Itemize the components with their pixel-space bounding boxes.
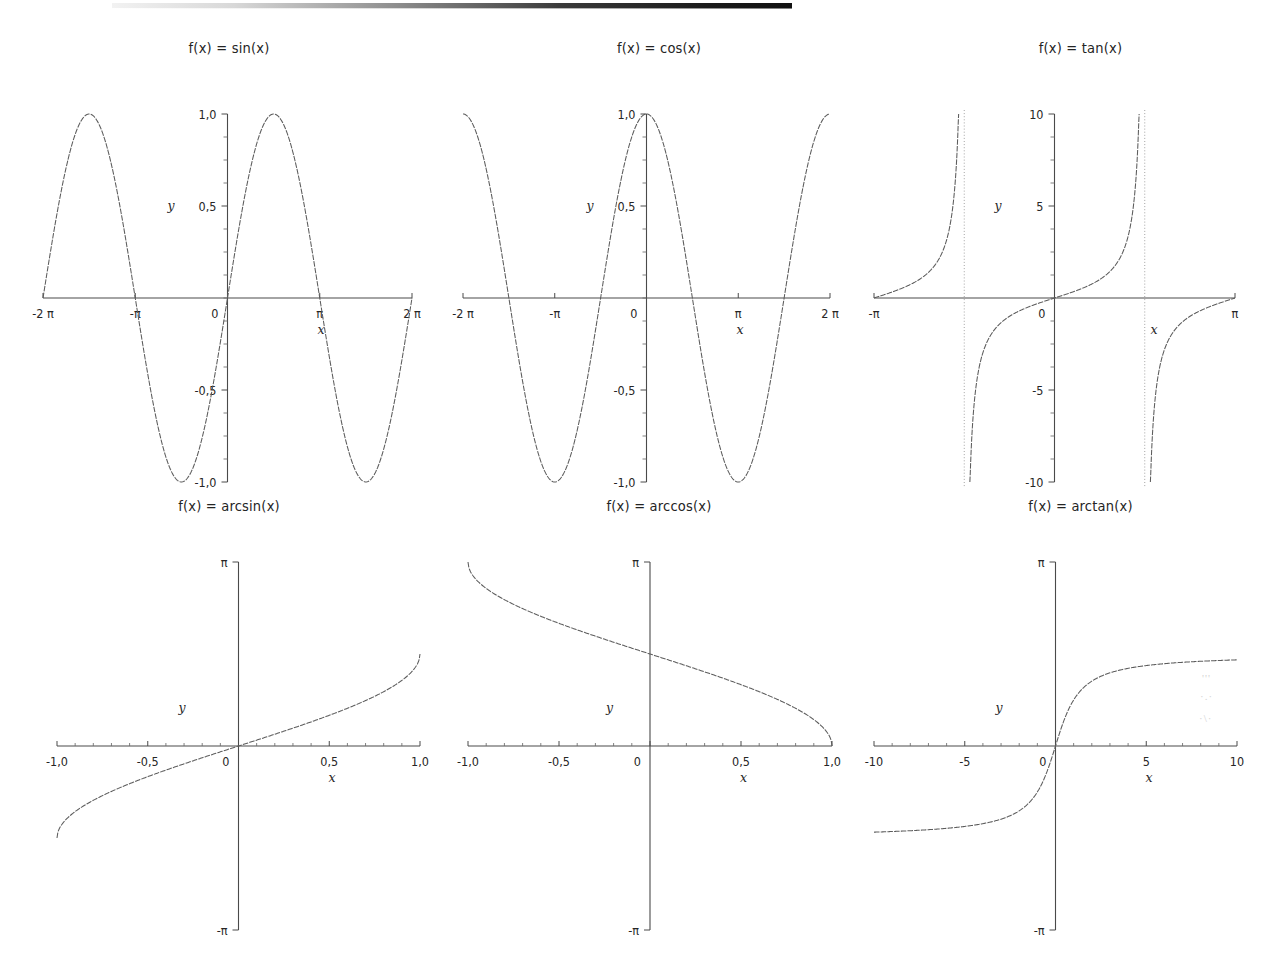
y-tick-label: π — [632, 555, 639, 570]
plot-title-arctan: f(x) = arctan(x) — [874, 498, 1287, 514]
x-tick-label: 5 — [1143, 754, 1150, 769]
y-tick-label: -10 — [1025, 475, 1043, 490]
x-tick-label: 0,5 — [320, 754, 338, 769]
plot-panel-arcsin: f(x) = arcsin(x)-1,0-0,500,51,0π-πxy — [14, 498, 444, 948]
x-tick-label: -π — [130, 306, 141, 321]
plot-panel-arccos: f(x) = arccos(x)-1,0-0,500,51,0π-πxy — [444, 498, 874, 948]
x-tick-label: -1,0 — [46, 754, 68, 769]
y-axis-label: y — [167, 198, 176, 213]
figure-grid: f(x) = sin(x)-2 π-π0π2 π1,00,5-0,5-1,0xy… — [0, 0, 1287, 972]
curve-tan — [1150, 298, 1235, 482]
y-tick-label: -1,0 — [614, 475, 636, 490]
plot-canvas-arcsin: -1,0-0,500,51,0π-πxy — [14, 520, 444, 948]
plot-canvas-tan: -π0π105-5-10xy — [874, 62, 1287, 500]
y-tick-label: 0,5 — [199, 199, 217, 214]
scan-smudge-3: ·\· — [1199, 712, 1212, 724]
plot-title-tan: f(x) = tan(x) — [874, 40, 1287, 56]
x-tick-label: -0,5 — [548, 754, 570, 769]
x-axis-label: x — [1146, 770, 1153, 785]
y-tick-label: 1,0 — [199, 107, 217, 122]
x-tick-label: 0 — [634, 754, 641, 769]
y-axis-label: y — [995, 700, 1004, 715]
plot-panel-cos: f(x) = cos(x)-2 π-π0π2 π1,00,5-0,5-1,0xy — [444, 40, 874, 500]
y-axis-label: y — [178, 700, 187, 715]
plot-canvas-arccos: -1,0-0,500,51,0π-πxy — [444, 520, 874, 948]
y-tick-label: -π — [628, 923, 639, 938]
y-axis-label: y — [605, 700, 614, 715]
y-tick-label: -0,5 — [195, 383, 217, 398]
x-tick-label: -π — [869, 306, 880, 321]
x-tick-label: π — [1232, 306, 1239, 321]
y-tick-label: -5 — [1032, 383, 1043, 398]
x-tick-label: π — [735, 306, 742, 321]
y-tick-label: -π — [217, 923, 228, 938]
plot-canvas-sin: -2 π-π0π2 π1,00,5-0,5-1,0xy — [14, 62, 444, 500]
plot-title-arccos: f(x) = arccos(x) — [444, 498, 874, 514]
plot-canvas-cos: -2 π-π0π2 π1,00,5-0,5-1,0xy — [444, 62, 874, 500]
x-tick-label: -π — [549, 306, 560, 321]
x-tick-label: -2 π — [32, 306, 54, 321]
y-tick-label: -0,5 — [614, 383, 636, 398]
x-tick-label: 2 π — [821, 306, 839, 321]
x-axis-label: x — [329, 770, 336, 785]
plot-panel-tan: f(x) = tan(x)-π0π105-5-10xy — [874, 40, 1287, 500]
y-tick-label: 1,0 — [618, 107, 636, 122]
curve-tan — [874, 114, 959, 298]
x-tick-label: 0 — [1038, 306, 1045, 321]
x-axis-label: x — [737, 322, 744, 337]
x-tick-label: 0 — [222, 754, 229, 769]
plot-title-arcsin: f(x) = arcsin(x) — [14, 498, 444, 514]
x-axis-label: x — [1151, 322, 1158, 337]
y-tick-label: π — [1038, 555, 1045, 570]
x-tick-label: 2 π — [403, 306, 421, 321]
x-tick-label: -2 π — [452, 306, 474, 321]
y-tick-label: -π — [1034, 923, 1045, 938]
x-tick-label: 10 — [1230, 754, 1244, 769]
scan-smudge-1: ''' — [1202, 672, 1211, 684]
plot-title-cos: f(x) = cos(x) — [444, 40, 874, 56]
x-tick-label: 0 — [1039, 754, 1046, 769]
plot-panel-arctan: f(x) = arctan(x)-10-50510π-πxy — [874, 498, 1287, 948]
y-tick-label: π — [221, 555, 228, 570]
x-tick-label: 1,0 — [823, 754, 841, 769]
plot-canvas-arctan: -10-50510π-πxy — [874, 520, 1287, 948]
x-tick-label: π — [316, 306, 323, 321]
y-axis-label: y — [586, 198, 595, 213]
plot-panel-sin: f(x) = sin(x)-2 π-π0π2 π1,00,5-0,5-1,0xy — [14, 40, 444, 500]
x-tick-label: 1,0 — [411, 754, 429, 769]
x-tick-label: 0,5 — [732, 754, 750, 769]
y-tick-label: -1,0 — [195, 475, 217, 490]
y-axis-label: y — [994, 198, 1003, 213]
x-tick-label: -1,0 — [457, 754, 479, 769]
y-tick-label: 10 — [1029, 107, 1043, 122]
x-tick-label: 0 — [211, 306, 218, 321]
scan-smudge-2: ·.· — [1200, 690, 1213, 702]
y-tick-label: 0,5 — [618, 199, 636, 214]
x-tick-label: -5 — [959, 754, 970, 769]
y-tick-label: 5 — [1036, 199, 1043, 214]
x-tick-label: -10 — [865, 754, 883, 769]
x-tick-label: -0,5 — [137, 754, 159, 769]
x-axis-label: x — [740, 770, 747, 785]
plot-title-sin: f(x) = sin(x) — [14, 40, 444, 56]
x-tick-label: 0 — [630, 306, 637, 321]
